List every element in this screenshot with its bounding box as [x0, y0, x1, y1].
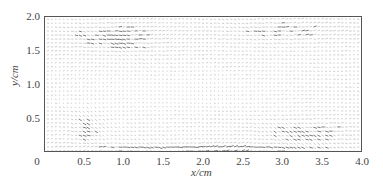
y-tick-label-0.5: 0.5 [14, 113, 40, 124]
vector-arrows-dark [75, 23, 341, 152]
x-tick-label-0: 0 [22, 156, 52, 167]
plot-area [44, 16, 362, 152]
velocity-vector-field [45, 17, 362, 152]
y-tick-label-1.5: 1.5 [14, 45, 40, 56]
x-tick-label-2.5: 2.5 [228, 156, 258, 167]
vector-arrows-light [47, 18, 362, 152]
x-tick-label-3.5: 3.5 [307, 156, 337, 167]
y-axis-label: y/cm [8, 65, 20, 86]
vector-field-figure: 2.0 1.5 1.0 0.5 0 0.5 1.0 1.5 2.0 2.5 3.… [0, 0, 383, 186]
x-tick-label-4.0: 4.0 [347, 156, 377, 167]
x-tick-label-3.0: 3.0 [267, 156, 297, 167]
x-tick-label-1.5: 1.5 [148, 156, 178, 167]
x-tick-label-1.0: 1.0 [108, 156, 138, 167]
y-tick-label-2.0: 2.0 [14, 11, 40, 22]
x-axis-label: x/cm [191, 166, 212, 178]
x-tick-label-0.5: 0.5 [69, 156, 99, 167]
